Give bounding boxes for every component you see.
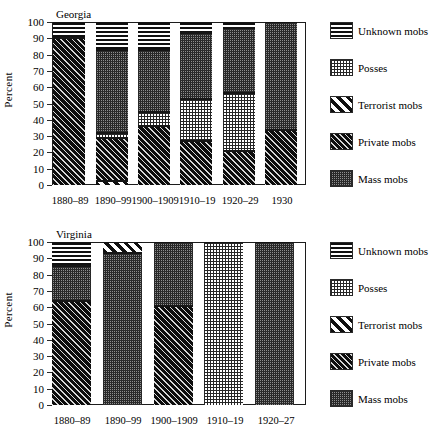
bar-segment-private	[180, 141, 212, 185]
bar-segment-posses	[204, 242, 243, 405]
bar-segment-unknown	[96, 22, 128, 50]
legend-label-mass: Mass mobs	[358, 173, 408, 185]
legend-item-mass: Mass mobs	[330, 390, 408, 407]
legend-item-mass: Mass mobs	[330, 170, 408, 187]
legend-label-posses: Posses	[358, 282, 387, 294]
bar-segment-mass	[138, 50, 170, 113]
y-axis-tick-label: 80	[18, 270, 44, 281]
legend-label-unknown: Unknown mobs	[358, 25, 428, 37]
legend-swatch-mass	[330, 390, 353, 407]
y-axis-tick	[47, 38, 52, 39]
bar-1900-1909	[138, 22, 170, 185]
bar-segment-unknown	[180, 22, 212, 33]
bar-segment-private	[265, 130, 297, 185]
y-axis-tick	[47, 120, 52, 121]
bar-segment-mass	[154, 242, 193, 306]
bar-segment-mass	[180, 33, 212, 98]
legend-swatch-terrorist	[330, 96, 353, 113]
y-axis-tick-label: 100	[18, 237, 44, 248]
y-axis-title-georgia: Percent	[2, 72, 14, 108]
y-axis-tick	[47, 71, 52, 72]
legend-label-unknown: Unknown mobs	[358, 245, 428, 257]
bar-segment-terrorist	[103, 242, 142, 253]
legend-item-posses: Posses	[330, 59, 387, 76]
chart-title-georgia: Georgia	[56, 8, 91, 20]
y-axis-tick	[47, 136, 52, 137]
bar-segment-posses	[138, 112, 170, 125]
legend-swatch-unknown	[330, 22, 353, 39]
legend-swatch-posses	[330, 59, 353, 76]
x-axis-tick-label: 1930	[252, 196, 312, 207]
y-axis-tick-label: 60	[18, 82, 44, 93]
y-axis-tick-label: 90	[18, 253, 44, 264]
legend-item-posses: Posses	[330, 279, 387, 296]
bar-segment-unknown	[52, 242, 91, 266]
y-axis-tick-label: 20	[18, 367, 44, 378]
y-axis-tick-label: 100	[18, 17, 44, 28]
y-axis-tick-label: 40	[18, 115, 44, 126]
bar-segment-private	[52, 301, 91, 405]
y-axis-tick-label: 10	[18, 384, 44, 395]
y-axis-tick-label: 70	[18, 286, 44, 297]
bar-segment-mass	[52, 266, 91, 300]
bar-1910-19	[204, 242, 243, 405]
bar-segment-mass	[255, 242, 294, 405]
y-axis-tick	[47, 22, 52, 23]
bar-segment-posses	[96, 133, 128, 138]
bar-segment-terrorist	[96, 181, 128, 185]
bar-segment-posses	[223, 93, 255, 151]
bar-segment-mass	[265, 22, 297, 130]
bar-1890-99	[96, 22, 128, 185]
legend-swatch-unknown	[330, 242, 353, 259]
legend-item-terrorist: Terrorist mobs	[330, 96, 422, 113]
y-axis-tick-label: 80	[18, 50, 44, 61]
bar-1920-27	[255, 242, 294, 405]
bar-segment-unknown	[138, 22, 170, 50]
y-axis-tick	[47, 185, 52, 186]
bar-segment-unknown	[53, 22, 85, 37]
bar-1880-89	[52, 242, 91, 405]
legend-label-terrorist: Terrorist mobs	[358, 319, 422, 331]
y-axis-tick-label: 0	[18, 400, 44, 411]
y-axis-tick	[47, 55, 52, 56]
legend-swatch-mass	[330, 170, 353, 187]
legend-swatch-private	[330, 353, 353, 370]
bar-segment-private	[223, 151, 255, 185]
legend-item-unknown: Unknown mobs	[330, 22, 428, 39]
y-axis-tick-label: 20	[18, 147, 44, 158]
y-axis-tick-label: 60	[18, 302, 44, 313]
bar-1930	[265, 22, 297, 185]
legend-label-terrorist: Terrorist mobs	[358, 99, 422, 111]
legend-swatch-posses	[330, 279, 353, 296]
bar-1920-29	[223, 22, 255, 185]
legend-item-unknown: Unknown mobs	[330, 242, 428, 259]
x-axis-tick-label: 1920–27	[246, 416, 306, 427]
bar-1890-99	[103, 242, 142, 405]
y-axis-tick	[47, 152, 52, 153]
chart-title-virginia: Virginia	[56, 228, 92, 240]
y-axis-tick-label: 50	[18, 99, 44, 110]
legend-item-private: Private mobs	[330, 133, 416, 150]
legend-label-mass: Mass mobs	[358, 393, 408, 405]
y-axis-tick	[47, 104, 52, 105]
y-axis-tick	[47, 405, 52, 406]
bar-segment-mass	[96, 50, 128, 133]
y-axis-tick-label: 50	[18, 319, 44, 330]
legend-label-private: Private mobs	[358, 136, 416, 148]
bar-segment-mass	[103, 253, 142, 405]
y-axis-tick-label: 10	[18, 164, 44, 175]
y-axis-tick-label: 30	[18, 131, 44, 142]
y-axis-tick-label: 70	[18, 66, 44, 77]
legend-item-terrorist: Terrorist mobs	[330, 316, 422, 333]
bar-segment-private	[53, 38, 85, 186]
chart-georgia: Georgia Percent 1009080706050403020100 1…	[0, 0, 445, 220]
y-axis-tick	[47, 169, 52, 170]
legend-item-private: Private mobs	[330, 353, 416, 370]
y-axis-tick-label: 0	[18, 180, 44, 191]
bar-1880-89	[53, 22, 85, 185]
y-axis-tick-label: 90	[18, 33, 44, 44]
chart-virginia: Virginia Percent 1009080706050403020100 …	[0, 220, 445, 440]
bar-segment-private	[154, 306, 193, 405]
y-axis-title-virginia: Percent	[2, 292, 14, 328]
y-axis-tick-label: 40	[18, 335, 44, 346]
